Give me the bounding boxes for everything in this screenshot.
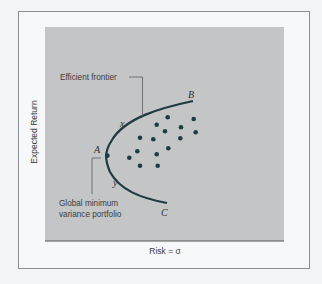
point-y-label: y <box>112 177 118 188</box>
point-a-marker <box>105 153 110 158</box>
asset-dot <box>138 163 143 168</box>
asset-dot <box>138 135 143 140</box>
asset-dot <box>178 136 183 141</box>
asset-dot <box>155 163 160 168</box>
x-axis-label: Risk = σ <box>149 246 181 256</box>
efficient-frontier-label: Efficient frontier <box>60 73 117 82</box>
point-c-label: C <box>161 207 168 218</box>
asset-dot <box>135 149 140 154</box>
asset-dot <box>154 122 159 127</box>
gmv-label-line1: Global minimum <box>59 199 118 208</box>
point-x-label: x <box>119 118 125 129</box>
point-b-label: B <box>188 89 194 100</box>
asset-dot <box>127 155 132 160</box>
asset-dot <box>165 115 170 120</box>
asset-dot <box>193 130 198 135</box>
gmv-label-line2: variance portfolio <box>59 210 122 219</box>
asset-dot <box>154 152 159 157</box>
point-a-label: A <box>93 144 101 155</box>
asset-dot <box>179 125 184 130</box>
y-axis-label: Expected Return <box>29 100 39 164</box>
efficient-frontier-diagram: Efficient frontier Global minimum varian… <box>0 0 322 284</box>
asset-dot <box>151 137 156 142</box>
asset-dot <box>191 117 196 122</box>
asset-dot <box>163 129 168 134</box>
asset-dot <box>166 146 171 151</box>
